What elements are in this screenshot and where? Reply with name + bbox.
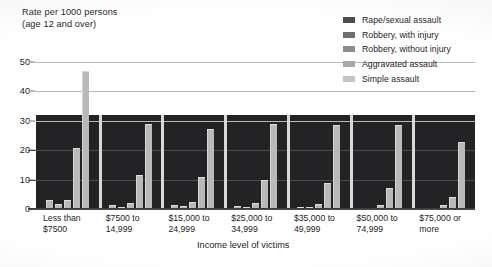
bar — [261, 180, 268, 209]
bar — [73, 148, 80, 209]
bar — [395, 125, 402, 209]
x-axis-line — [28, 208, 475, 209]
bar — [458, 142, 465, 209]
bar — [207, 129, 214, 209]
legend-item: Robbery, with injury — [343, 28, 451, 43]
x-axis-title: Income level of victims — [197, 240, 289, 250]
legend-item: Aggravated assault — [343, 57, 451, 72]
bar — [270, 124, 277, 209]
legend-item: Robbery, without injury — [343, 42, 451, 57]
legend-swatch-icon — [343, 61, 355, 67]
legend-label: Simple assault — [362, 74, 419, 84]
legend-swatch-icon — [343, 76, 355, 82]
chart-legend: Rape/sexual assaultRobbery, with injuryR… — [343, 13, 451, 86]
bar — [333, 125, 340, 209]
legend-item: Simple assault — [343, 71, 451, 86]
bar-group — [224, 62, 287, 209]
bar-group — [36, 62, 99, 209]
x-axis-label: $7500 to 14,999 — [99, 213, 162, 236]
legend-item: Rape/sexual assault — [343, 13, 451, 28]
x-axis-labels: Less than $7500$7500 to 14,999$15,000 to… — [36, 213, 475, 236]
x-axis-label: $35,000 to 49,999 — [287, 213, 350, 236]
legend-label: Rape/sexual assault — [362, 15, 441, 25]
x-axis-label: $75,000 or more — [412, 213, 475, 236]
x-axis-label: $15,000 to 24,999 — [161, 213, 224, 236]
legend-label: Robbery, with injury — [362, 30, 439, 40]
y-axis-title: Rate per 1000 persons (age 12 and over) — [22, 7, 118, 30]
legend-swatch-icon — [343, 46, 355, 52]
bar — [136, 175, 143, 209]
bar — [386, 188, 393, 209]
x-axis-label: Less than $7500 — [36, 213, 99, 236]
x-axis-label: $50,000 to 74,999 — [350, 213, 413, 236]
legend-swatch-icon — [343, 32, 355, 38]
legend-swatch-icon — [343, 17, 355, 23]
bar — [324, 183, 331, 209]
legend-label: Robbery, without injury — [362, 44, 451, 54]
legend-label: Aggravated assault — [362, 59, 437, 69]
bar-group — [99, 62, 162, 209]
x-axis-label: $25,000 to 34,999 — [224, 213, 287, 236]
gridline — [28, 209, 475, 210]
bar — [82, 71, 89, 209]
chart-figure: Rate per 1000 persons (age 12 and over) … — [0, 0, 492, 267]
bar-group — [161, 62, 224, 209]
bar-group — [287, 62, 350, 209]
bar — [198, 177, 205, 209]
bar — [145, 124, 152, 209]
